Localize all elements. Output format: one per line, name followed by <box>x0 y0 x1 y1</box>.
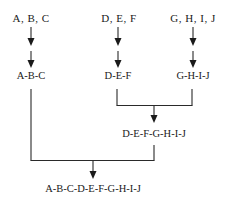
input-group-def: D, E, F <box>101 12 136 24</box>
arrow-def-1 <box>115 27 122 46</box>
arrow-def-2 <box>115 51 122 68</box>
node-def: D-E-F <box>105 70 132 82</box>
merge-connector-defghij <box>117 89 193 123</box>
node-final-merged: A-B-C-D-E-F-G-H-I-J <box>45 183 141 195</box>
merge-diagram: A, B, C D, E, F G, H, I, J A-B-C D-E-F G… <box>0 0 236 209</box>
node-ghij: G-H-I-J <box>176 70 209 82</box>
arrow-ghij-1 <box>190 27 197 46</box>
input-group-ghij: G, H, I, J <box>170 12 215 24</box>
node-abc: A-B-C <box>17 70 46 82</box>
input-group-abc: A, B, C <box>12 12 49 24</box>
arrow-abc-2 <box>28 51 35 68</box>
arrow-ghij-2 <box>190 51 197 68</box>
arrow-abc-1 <box>28 27 35 46</box>
node-defghij: D-E-F-G-H-I-J <box>122 128 186 140</box>
connector-layer <box>0 0 236 209</box>
